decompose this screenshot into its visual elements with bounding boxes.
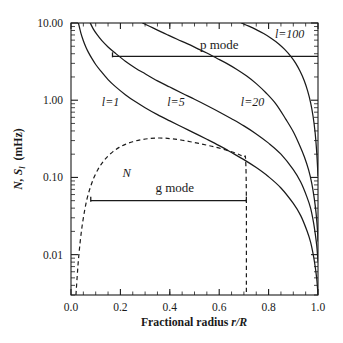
curve-label-l1: l=1 bbox=[102, 95, 119, 109]
svg-text:N, Sl (mHz): N, Sl (mHz) bbox=[11, 128, 27, 190]
svg-text:Fractional radius r/R: Fractional radius r/R bbox=[141, 315, 247, 329]
annotation-label-p_mode: p mode bbox=[200, 37, 239, 52]
curve-label-l20: l=20 bbox=[241, 95, 264, 109]
x-tick-label: 1.0 bbox=[311, 301, 326, 313]
x-axis-title-italic: r/R bbox=[231, 315, 247, 329]
propagation-diagram-figure: 0.00.20.40.60.81.0 0.010.101.0010.00 l=1… bbox=[0, 0, 343, 343]
x-axis-title-text: Fractional radius bbox=[141, 315, 231, 329]
curve-n bbox=[76, 138, 246, 295]
plot-frame bbox=[71, 23, 318, 295]
x-tick-label: 0.0 bbox=[64, 301, 79, 313]
chart-canvas: 0.00.20.40.60.81.0 0.010.101.0010.00 l=1… bbox=[0, 0, 343, 343]
x-tick-label: 0.4 bbox=[163, 301, 178, 313]
y-axis-ticks bbox=[71, 23, 318, 295]
x-tick-label: 0.8 bbox=[261, 301, 276, 313]
curve-l5 bbox=[90, 23, 318, 261]
curve-l1 bbox=[78, 23, 318, 295]
y-axis-tick-labels: 0.010.101.0010.00 bbox=[37, 17, 63, 261]
y-tick-label: 0.01 bbox=[43, 249, 63, 261]
y-tick-label: 10.00 bbox=[37, 17, 63, 29]
curve-label-l5: l=5 bbox=[167, 95, 184, 109]
y-tick-label: 1.00 bbox=[43, 94, 63, 106]
x-axis-tick-labels: 0.00.20.40.60.81.0 bbox=[64, 301, 326, 313]
x-tick-label: 0.6 bbox=[212, 301, 227, 313]
data-curves bbox=[76, 23, 318, 295]
x-axis-title: Fractional radius r/R bbox=[141, 315, 247, 329]
annotation-label-g_mode: g mode bbox=[155, 180, 194, 195]
y-axis-title-text: N, S bbox=[11, 168, 25, 190]
x-axis-ticks bbox=[71, 23, 318, 295]
y-axis-title: N, Sl (mHz) bbox=[11, 128, 27, 190]
x-tick-label: 0.2 bbox=[113, 301, 128, 313]
curve-label-l100: l=100 bbox=[275, 27, 304, 41]
y-tick-label: 0.10 bbox=[43, 171, 63, 183]
curve-label-brunt_vaisala: N bbox=[121, 166, 131, 180]
y-axis-title-unit: (mHz) bbox=[11, 128, 25, 160]
